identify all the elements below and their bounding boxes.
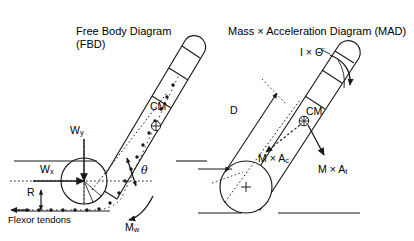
mad-mac-label-sub: c bbox=[285, 156, 289, 165]
fbd-wx-label-sub: x bbox=[50, 167, 54, 176]
fbd-mw-moment-arrow bbox=[129, 196, 153, 220]
fbd-mw-label-sub: w bbox=[134, 225, 139, 234]
fbd-flexor-tendons-label: Flexor tendons bbox=[8, 214, 71, 225]
mad-mat-vector bbox=[308, 125, 324, 155]
mad-inertia-label: I × Θ̈ bbox=[300, 46, 323, 58]
mad-mat-label-base: M × A bbox=[318, 163, 345, 175]
fbd-mw-label: Mw bbox=[125, 221, 139, 235]
fbd-theta-label: θ bbox=[141, 165, 148, 178]
fbd-cm-marker bbox=[151, 121, 160, 130]
fbd-wx-label: Wx bbox=[40, 163, 54, 177]
fbd-title-line2: (FBD) bbox=[76, 38, 105, 51]
fbd-forearm-outline bbox=[98, 36, 206, 199]
mad-mac-label: M × Ac bbox=[258, 152, 289, 166]
fbd-title-line1: Free Body Diagram bbox=[76, 25, 171, 38]
fbd-r-label: R bbox=[27, 186, 35, 198]
fbd-wy-label: Wy bbox=[70, 124, 84, 138]
fbd-wx-label-base: W bbox=[40, 163, 50, 175]
mad-cm-marker bbox=[299, 116, 309, 126]
mad-d-guide-upper bbox=[262, 79, 286, 104]
mad-distance-label: D bbox=[230, 104, 238, 116]
fbd-wy-label-base: W bbox=[70, 124, 80, 136]
fbd-mw-label-base: M bbox=[125, 221, 134, 233]
mad-mat-label-sub: t bbox=[345, 167, 347, 176]
mad-title: Mass × Acceleration Diagram (MAD) bbox=[228, 25, 406, 38]
fbd-wy-label-sub: y bbox=[80, 128, 84, 137]
mad-mac-label-base: M × A bbox=[258, 152, 285, 164]
figure-container: Free Body Diagram (FBD) Mass × Accelerat… bbox=[0, 0, 414, 241]
mad-cm-label: CM bbox=[306, 105, 322, 117]
fbd-cm-label: CM bbox=[150, 100, 166, 112]
mad-mat-label: M × At bbox=[318, 163, 347, 177]
